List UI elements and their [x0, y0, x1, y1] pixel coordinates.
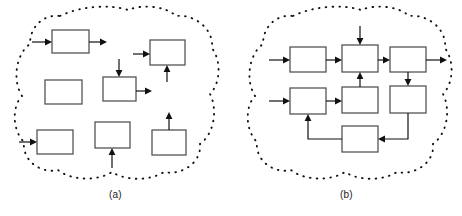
arrow-external-input-top: [269, 57, 290, 64]
block-a3: [45, 80, 82, 104]
arrow-external-input-b2-top: [357, 26, 364, 45]
block-a1: [52, 30, 89, 53]
panel-b-caption: (b): [231, 189, 462, 200]
arrow-a4-output: [136, 88, 152, 95]
arrow-b4-to-b5: [326, 98, 342, 105]
panel-a: (a): [0, 0, 231, 216]
arrow-b3-to-external-output: [426, 57, 447, 64]
block-a6: [95, 122, 130, 148]
block-a7: [152, 130, 186, 155]
block-b5: [342, 87, 378, 113]
block-a4: [103, 77, 136, 101]
arrow-a1-output: [89, 39, 107, 46]
arrow-b1-to-b2: [326, 57, 342, 64]
block-b7: [342, 126, 378, 152]
block-b1: [290, 47, 326, 72]
arrow-a1-input: [32, 39, 52, 46]
block-b4: [290, 88, 326, 114]
arrow-a2-input-bottom: [164, 65, 171, 82]
block-a5: [37, 130, 73, 154]
arrow-b6-to-b7: [378, 113, 408, 142]
panel-b: (b): [231, 0, 462, 216]
panel-a-caption: (a): [0, 189, 231, 200]
arrow-a6-input-bottom: [109, 148, 116, 168]
block-b3: [390, 47, 426, 72]
block-a2: [150, 40, 185, 65]
arrow-b3-to-b6: [405, 72, 412, 86]
arrow-external-input-mid: [269, 98, 290, 105]
block-b2: [342, 45, 378, 72]
block-b6: [390, 86, 426, 113]
arrow-a7-output-top: [166, 112, 173, 130]
arrow-b2-to-b3: [378, 57, 390, 64]
arrow-b7-to-b4-feedback: [305, 114, 342, 139]
arrow-a4-input-top: [116, 59, 123, 77]
arrow-a2-input-left: [133, 51, 150, 58]
figure-container: (a): [0, 0, 462, 216]
panel-b-diagram: [231, 0, 462, 216]
panel-a-diagram: [0, 0, 231, 216]
arrow-b5-to-b2: [357, 72, 364, 87]
